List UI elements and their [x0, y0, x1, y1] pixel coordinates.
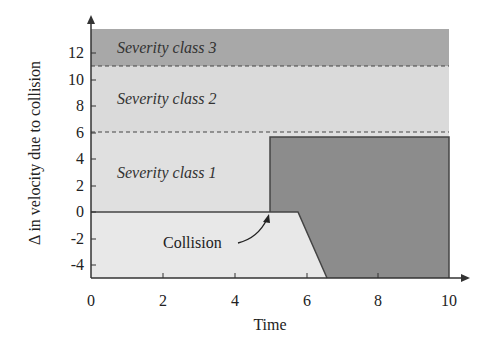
y-tick-label: 8	[76, 97, 84, 114]
y-tick-label: -4	[71, 256, 84, 273]
x-tick-label: 8	[374, 292, 382, 309]
y-tick-label: 0	[76, 203, 84, 220]
x-tick-label: 10	[441, 292, 457, 309]
chart: 12 10 8 6 4 2 0 -2 -4 0 2 4 6 8 10 Time …	[0, 0, 490, 352]
y-tick-label: 2	[76, 177, 84, 194]
y-axis-arrow-icon	[87, 15, 95, 24]
x-axis-label: Time	[253, 316, 286, 333]
y-tick-label: -2	[71, 230, 84, 247]
x-tick-label: 6	[303, 292, 311, 309]
collision-label: Collision	[163, 234, 222, 251]
y-axis-label: Δ in velocity due to collision	[26, 61, 44, 245]
y-tick-label: 12	[68, 44, 84, 61]
x-tick-label: 2	[159, 292, 167, 309]
x-axis-arrow-icon	[461, 274, 470, 282]
y-tick-label: 10	[68, 71, 84, 88]
severity-class-2-label: Severity class 2	[117, 90, 217, 108]
x-tick-label: 0	[87, 292, 95, 309]
severity-class-1-label: Severity class 1	[117, 164, 217, 182]
severity-class-3-label: Severity class 3	[117, 39, 217, 57]
y-tick-label: 4	[76, 150, 84, 167]
y-tick-label: 6	[76, 124, 84, 141]
x-tick-label: 4	[231, 292, 239, 309]
